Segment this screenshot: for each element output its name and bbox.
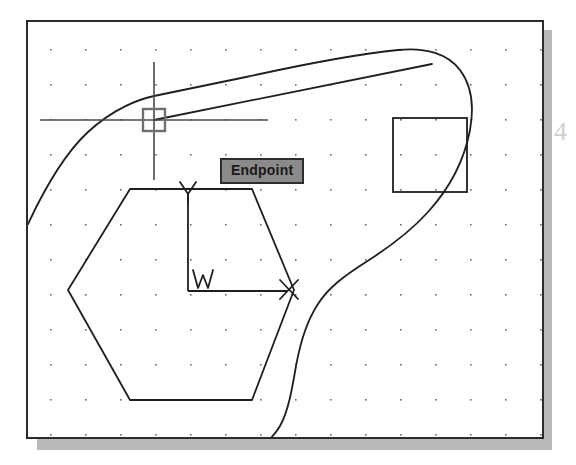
cad-canvas[interactable]: [28, 22, 542, 437]
drawing-area[interactable]: Endpoint: [26, 20, 544, 439]
margin-figure-number: 4: [554, 118, 574, 146]
endpoint-snap-tooltip: Endpoint: [220, 158, 304, 184]
page-root: Endpoint 4: [0, 0, 576, 465]
